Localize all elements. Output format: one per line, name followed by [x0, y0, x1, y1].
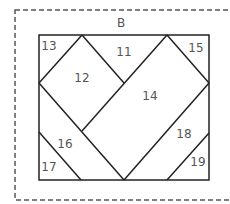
piece-label-19: 19 [190, 155, 205, 169]
piece-label-17: 17 [41, 160, 56, 174]
piece-label-12: 12 [74, 71, 89, 85]
piece-label-13: 13 [41, 39, 56, 53]
piece-label-16: 16 [57, 137, 72, 151]
block-label: B [117, 16, 125, 30]
piece-label-14: 14 [142, 89, 157, 103]
piece-label-18: 18 [176, 127, 191, 141]
quilt-block-diagram: B 111213141516171819 [0, 0, 230, 204]
piece-label-11: 11 [116, 45, 131, 59]
piece-label-15: 15 [188, 41, 203, 55]
